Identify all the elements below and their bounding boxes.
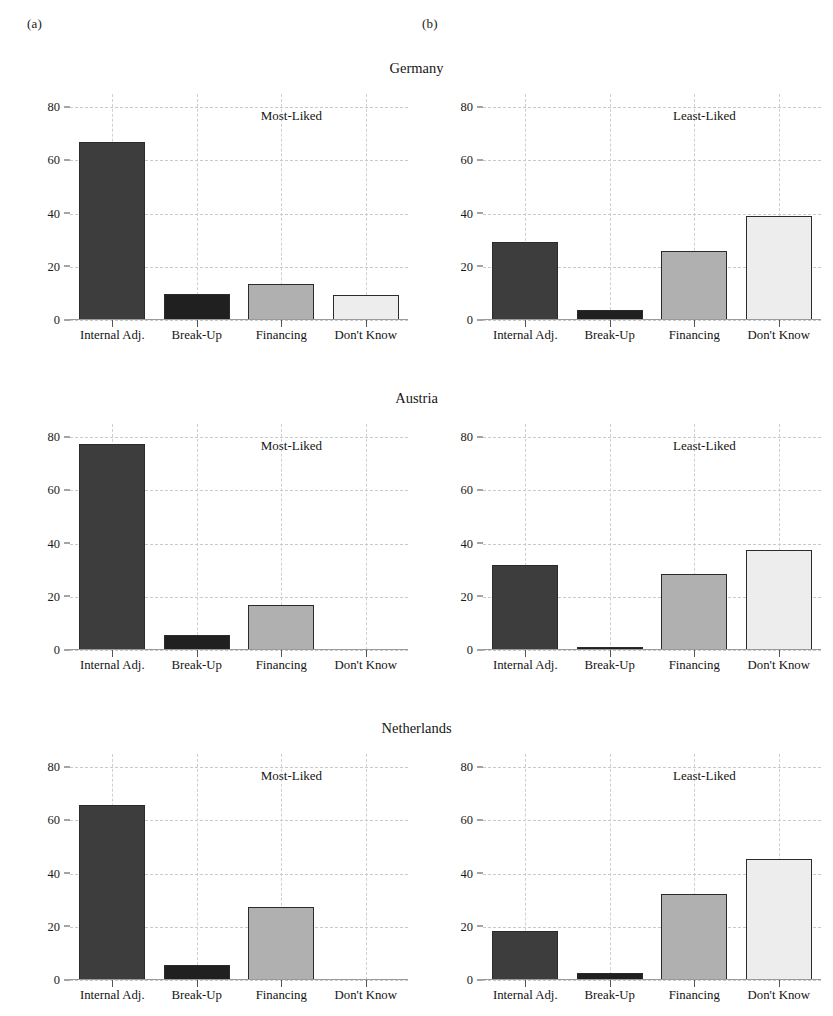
x-axis-labels: Internal Adj.Break-UpFinancingDon't Know (70, 988, 408, 1008)
x-axis-category-label: Financing (256, 658, 307, 673)
country-title: Germany (0, 60, 833, 77)
y-axis-tick-label: 20 (437, 919, 483, 934)
x-axis-category-label: Break-Up (585, 988, 635, 1003)
panel-germany-least-liked: 020406080Least-Liked Internal Adj.Break-… (437, 84, 827, 356)
x-axis-category-label: Break-Up (172, 658, 222, 673)
x-axis-tick (779, 980, 780, 987)
y-axis-tick-label: 0 (437, 313, 483, 328)
y-axis-tick-label: 80 (437, 430, 483, 445)
x-axis-tick (779, 650, 780, 657)
x-axis-category-label: Internal Adj. (493, 328, 558, 343)
x-axis-tick (281, 650, 282, 657)
bar (79, 444, 145, 650)
x-axis-tick (197, 650, 198, 657)
chart-row-netherlands: Netherlands 020406080Most-Liked Internal… (0, 708, 833, 1016)
plot-area: 020406080Most-Liked (70, 94, 408, 320)
y-axis-tick-label: 60 (24, 813, 70, 828)
bar (164, 294, 230, 320)
bar (492, 242, 558, 320)
y-axis-tick-label: 40 (437, 536, 483, 551)
gridline-horizontal (70, 320, 408, 321)
plot-annotation: Least-Liked (673, 438, 736, 454)
bar (248, 284, 314, 320)
x-axis-category-label: Don't Know (748, 658, 810, 673)
x-axis-category-label: Financing (256, 988, 307, 1003)
x-axis-labels: Internal Adj.Break-UpFinancingDon't Know (483, 988, 821, 1008)
plot-annotation: Least-Liked (673, 768, 736, 784)
panel-netherlands-least-liked: 020406080Least-Liked Internal Adj.Break-… (437, 744, 827, 1016)
bar-series (483, 424, 821, 650)
panel-letter-b: (b) (422, 16, 438, 32)
bar (661, 894, 727, 980)
bar (661, 251, 727, 320)
bar (248, 907, 314, 980)
y-axis-tick-label: 0 (437, 973, 483, 988)
plot-annotation: Most-Liked (261, 108, 322, 124)
bar (333, 295, 399, 320)
panel-letter-a: (a) (27, 16, 42, 32)
y-axis-tick-label: 20 (24, 589, 70, 604)
x-axis-labels: Internal Adj.Break-UpFinancingDon't Know (70, 658, 408, 678)
x-axis-tick (197, 320, 198, 327)
panel-austria-least-liked: 020406080Least-Liked Internal Adj.Break-… (437, 414, 827, 686)
axis-baseline (70, 979, 408, 980)
x-axis-category-label: Break-Up (585, 658, 635, 673)
y-axis-tick-label: 0 (24, 643, 70, 658)
x-axis-category-label: Internal Adj. (493, 988, 558, 1003)
x-axis-tick (112, 650, 113, 657)
x-axis-category-label: Internal Adj. (80, 658, 145, 673)
x-axis-tick (366, 650, 367, 657)
bar-series (70, 94, 408, 320)
y-axis-tick-label: 60 (437, 813, 483, 828)
bar (248, 605, 314, 650)
y-axis-tick-label: 80 (24, 100, 70, 115)
x-axis-category-label: Break-Up (585, 328, 635, 343)
country-title: Netherlands (0, 720, 833, 737)
x-axis-category-label: Don't Know (748, 988, 810, 1003)
y-axis-tick-label: 0 (24, 973, 70, 988)
x-axis-category-label: Financing (669, 658, 720, 673)
plot-area: 020406080Most-Liked (70, 754, 408, 980)
x-axis-tick (281, 980, 282, 987)
x-axis-tick (366, 320, 367, 327)
plot-area: 020406080Least-Liked (483, 754, 821, 980)
x-axis-tick (694, 650, 695, 657)
country-title: Austria (0, 390, 833, 407)
bar (492, 931, 558, 980)
x-axis-category-label: Don't Know (335, 328, 397, 343)
axis-baseline (483, 649, 821, 650)
axis-baseline (70, 649, 408, 650)
bar (164, 965, 230, 980)
y-axis-tick-label: 20 (24, 259, 70, 274)
x-axis-tick (525, 980, 526, 987)
plot-area: 020406080Least-Liked (483, 424, 821, 650)
panel-netherlands-most-liked: 020406080Most-Liked Internal Adj.Break-U… (24, 744, 414, 1016)
y-axis-tick-label: 60 (437, 483, 483, 498)
bar-series (483, 94, 821, 320)
y-axis-tick-label: 60 (24, 483, 70, 498)
bar-series (70, 424, 408, 650)
x-axis-labels: Internal Adj.Break-UpFinancingDon't Know (483, 328, 821, 348)
x-axis-tick (366, 980, 367, 987)
x-axis-labels: Internal Adj.Break-UpFinancingDon't Know (70, 328, 408, 348)
gridline-horizontal (483, 980, 821, 981)
bar-series (483, 754, 821, 980)
x-axis-tick (610, 320, 611, 327)
x-axis-tick (610, 980, 611, 987)
x-axis-category-label: Break-Up (172, 328, 222, 343)
x-axis-tick (610, 650, 611, 657)
x-axis-category-label: Don't Know (748, 328, 810, 343)
x-axis-category-label: Financing (256, 328, 307, 343)
bar (661, 574, 727, 650)
panel-austria-most-liked: 020406080Most-Liked Internal Adj.Break-U… (24, 414, 414, 686)
y-axis-tick-label: 60 (24, 153, 70, 168)
x-axis-tick (112, 980, 113, 987)
x-axis-category-label: Internal Adj. (80, 988, 145, 1003)
y-axis-tick-label: 40 (437, 206, 483, 221)
plot-area: 020406080Most-Liked (70, 424, 408, 650)
x-axis-tick (694, 320, 695, 327)
x-axis-tick (281, 320, 282, 327)
axis-baseline (483, 979, 821, 980)
plot-annotation: Most-Liked (261, 438, 322, 454)
y-axis-tick-label: 20 (437, 259, 483, 274)
